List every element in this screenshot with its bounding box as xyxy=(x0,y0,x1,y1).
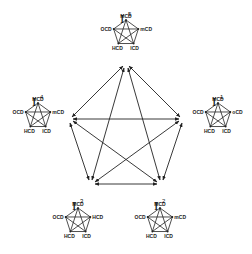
edge-I4-I3 xyxy=(70,123,89,180)
subgraph-edge xyxy=(30,112,50,127)
subgraph-title: I xyxy=(72,198,76,213)
subgraph-edge xyxy=(66,217,86,232)
edge-I5-I2 xyxy=(128,68,160,180)
edge-I5-I3 xyxy=(92,68,124,180)
node-dot xyxy=(65,216,67,218)
edge-I5-I1 xyxy=(129,66,180,117)
node-dot xyxy=(229,111,231,113)
node-dot xyxy=(37,102,39,104)
node-dot xyxy=(125,19,127,21)
subgraph-I3: MCDHCDICDHCDOCDI3 xyxy=(53,198,104,239)
subgraph-title: I xyxy=(120,11,124,26)
node-label-right: oCD xyxy=(232,109,243,115)
node-label-bottom-right: ICD xyxy=(82,233,91,239)
node-label-right: mCD xyxy=(52,109,64,115)
subgraph-I4: MCDmCDICDHCDOCDI4 xyxy=(13,94,65,134)
node-dot xyxy=(147,216,149,218)
subgraph-I2: MCDmCDICDHCDOCDI2 xyxy=(135,198,187,239)
subgraph-edge xyxy=(118,29,138,44)
subgraph-edge xyxy=(70,217,90,232)
subgraph-edge xyxy=(114,29,134,44)
node-label-left: OCD xyxy=(135,214,147,220)
node-label-bottom-left: HCD xyxy=(24,128,35,134)
node-dot xyxy=(205,111,207,113)
node-dot xyxy=(113,28,115,30)
node-label-left: OCD xyxy=(13,109,25,115)
node-dot xyxy=(217,102,219,104)
node-label-bottom-right: ICD xyxy=(42,128,51,134)
subgraph-edge xyxy=(206,112,226,127)
node-label-bottom-right: ICD xyxy=(222,128,231,134)
subgraph-I1: MCDoCDICDHCDOCDI1 xyxy=(193,94,244,134)
node-label-bottom-left: HCD xyxy=(204,128,215,134)
subgraph-edge xyxy=(38,103,46,127)
subgraph-edge xyxy=(26,112,46,127)
node-label-bottom-left: HCD xyxy=(146,233,157,239)
node-label-left: OCD xyxy=(53,214,65,220)
subgraph-I5: MCDmCDICDHCDOCDI5 xyxy=(101,11,153,51)
node-dot xyxy=(137,28,139,30)
subgraph-edge xyxy=(148,217,168,232)
edge-I4-I2 xyxy=(73,121,157,182)
subgraph-title: I xyxy=(154,198,158,213)
node-dot xyxy=(77,207,79,209)
node-dot xyxy=(89,216,91,218)
subgraph-edge xyxy=(210,112,230,127)
subgraph-edge xyxy=(78,208,86,232)
subgraph-title: I xyxy=(212,94,216,109)
edge-I5-I4 xyxy=(72,66,123,117)
network-diagram: MCDmCDICDHCDOCDI5MCDmCDICDHCDOCDI4MCDoCD… xyxy=(0,0,252,254)
subgraph-edge xyxy=(218,103,226,127)
subgraph-edge xyxy=(152,217,172,232)
edge-I1-I2 xyxy=(163,123,182,180)
node-dot xyxy=(171,216,173,218)
node-label-left: OCD xyxy=(193,109,205,115)
central-graph xyxy=(70,66,182,184)
subgraph-edge xyxy=(126,20,134,44)
edge-I1-I3 xyxy=(95,121,179,182)
node-label-bottom-left: HCD xyxy=(64,233,75,239)
node-dot xyxy=(25,111,27,113)
node-dot xyxy=(159,207,161,209)
node-label-right: mCD xyxy=(174,214,186,220)
node-label-left: OCD xyxy=(101,26,113,32)
node-label-bottom-right: ICD xyxy=(130,45,139,51)
subgraph-edge xyxy=(160,208,168,232)
node-label-bottom-left: HCD xyxy=(112,45,123,51)
node-label-bottom-right: ICD xyxy=(164,233,173,239)
node-dot xyxy=(49,111,51,113)
node-label-right: HCD xyxy=(92,214,103,220)
node-label-right: mCD xyxy=(140,26,152,32)
subgraph-title: I xyxy=(32,94,36,109)
subgraphs: MCDmCDICDHCDOCDI5MCDmCDICDHCDOCDI4MCDoCD… xyxy=(13,11,244,239)
